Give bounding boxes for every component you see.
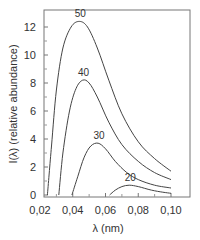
y-tick-label: 4: [30, 133, 36, 145]
y-tick-label: 12: [24, 21, 36, 33]
curve-50: [47, 21, 171, 195]
x-tick-label: 0,02: [29, 204, 50, 216]
curve-label-30: 30: [94, 130, 106, 141]
y-tick-label: 2: [30, 161, 36, 173]
x-tick-label: 0,10: [160, 204, 181, 216]
curve-label-50: 50: [75, 8, 87, 19]
x-tick-label: 0,06: [95, 204, 116, 216]
curve-label-40: 40: [78, 67, 90, 78]
x-tick-label: 0,04: [62, 204, 83, 216]
chart: 024681012 0,020,040,060,080,10 50403020 …: [0, 0, 200, 240]
x-tick-label: 0,08: [128, 204, 149, 216]
y-tick-label: 0: [30, 189, 36, 201]
curves: 50403020: [47, 8, 171, 195]
y-axis-label: I(λ) (relative abundance): [7, 44, 19, 163]
y-tick-label: 10: [24, 49, 36, 61]
x-axis-label: λ (nm): [92, 222, 123, 234]
y-tick-label: 8: [30, 77, 36, 89]
x-axis-ticks: 0,020,040,060,080,10: [29, 193, 181, 216]
curve-label-20: 20: [125, 172, 137, 183]
y-tick-label: 6: [30, 105, 36, 117]
